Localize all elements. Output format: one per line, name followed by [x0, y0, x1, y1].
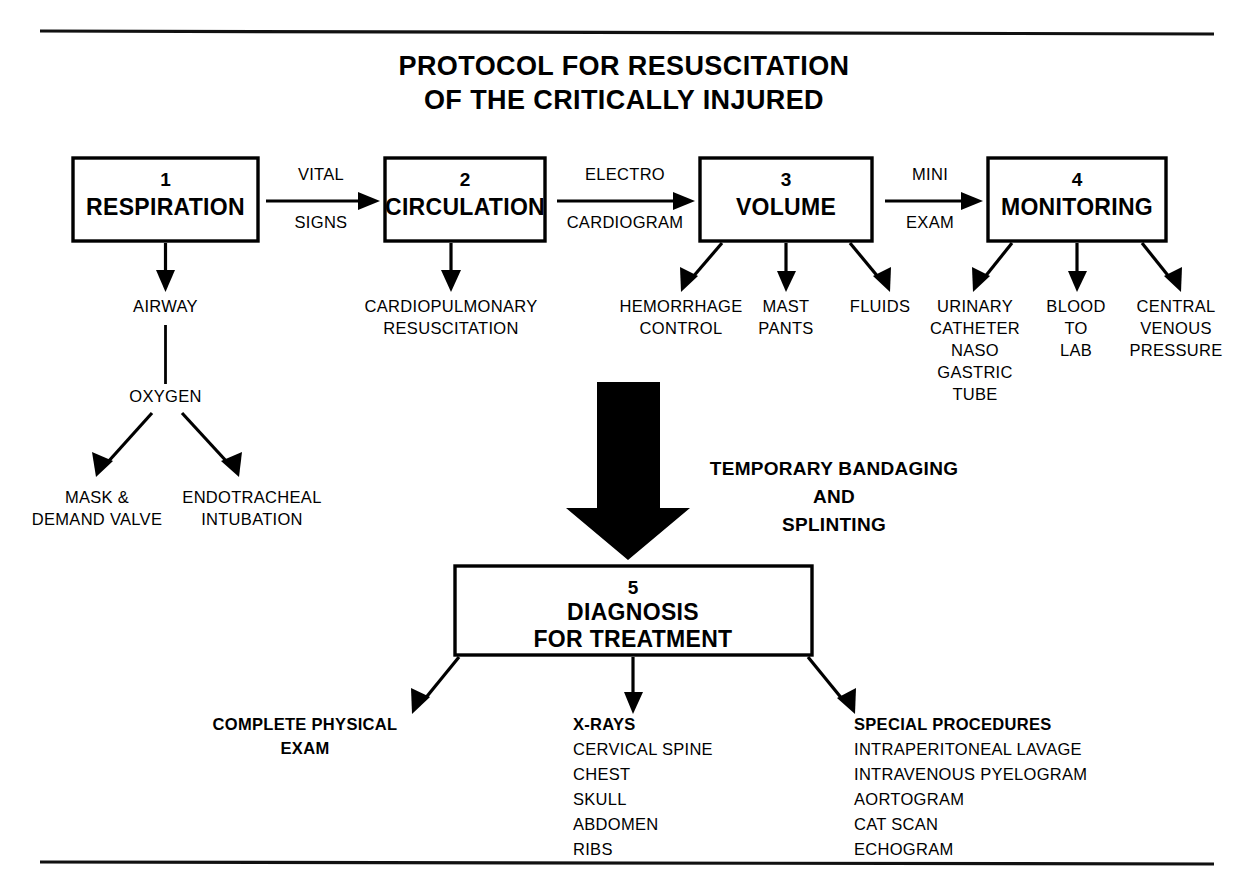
page-title-line1: PROTOCOL FOR RESUSCITATION [399, 51, 850, 81]
transition-label-exam: EXAM [906, 213, 954, 231]
flowchart-canvas: PROTOCOL FOR RESUSCITATION OF THE CRITIC… [0, 0, 1250, 887]
node-mast-pants-line2: PANTS [758, 319, 813, 337]
transition-label-signs: SIGNS [295, 213, 348, 231]
stage-box-respiration-label: RESPIRATION [86, 194, 245, 220]
interim-step-line1: TEMPORARY BANDAGING [710, 458, 959, 479]
node-hemorrhage-line2: CONTROL [640, 319, 723, 337]
node-blood-lab-line3: LAB [1060, 341, 1092, 359]
diagnosis-column-2-item-0: INTRAPERITONEAL LAVAGE [854, 740, 1082, 758]
node-urinary-catheter-line3: NASO [951, 341, 999, 359]
node-cardiopulmonary-line1: CARDIOPULMONARY [365, 297, 538, 315]
top-rule [40, 31, 1214, 34]
stage-box-diagnosis-number: 5 [628, 577, 639, 598]
bandaging-splinting-arrow-shape [566, 382, 690, 560]
branch-diagnosis [411, 657, 856, 714]
node-urinary-catheter-line4: GASTRIC [937, 363, 1012, 381]
transition-arrow-electro-cardiogram: ELECTRO CARDIOGRAM [557, 165, 695, 231]
node-endotracheal-intubation-line1: ENDOTRACHEAL [182, 488, 321, 506]
node-hemorrhage-line1: HEMORRHAGE [619, 297, 742, 315]
node-cvp-line3: PRESSURE [1129, 341, 1222, 359]
diagnosis-column-1-item-2: SKULL [573, 790, 627, 808]
stage-box-volume-number: 3 [781, 169, 792, 190]
diagnosis-column-0-heading-line1: COMPLETE PHYSICAL [213, 715, 398, 733]
diagnosis-column-2-item-1: INTRAVENOUS PYELOGRAM [854, 765, 1087, 783]
diagnosis-column-2-item-2: AORTOGRAM [854, 790, 964, 808]
transition-label-mini: MINI [912, 165, 948, 183]
node-urinary-catheter-line1: URINARY [937, 297, 1013, 315]
bottom-rule [40, 862, 1214, 864]
node-urinary-catheter-line2: CATHETER [930, 319, 1020, 337]
node-oxygen: OXYGEN [129, 387, 201, 405]
protocol-flowchart-page: PROTOCOL FOR RESUSCITATION OF THE CRITIC… [0, 0, 1250, 887]
transition-arrow-mini-exam: MINI EXAM [885, 165, 983, 231]
stage-box-circulation-label: CIRCULATION [385, 194, 545, 220]
node-mask-demand-valve-line2: DEMAND VALVE [32, 510, 162, 528]
interim-step-arrow [566, 382, 690, 560]
node-fluids: FLUIDS [850, 297, 910, 315]
stage-box-diagnosis-line2: FOR TREATMENT [534, 626, 733, 652]
node-urinary-catheter-line5: TUBE [952, 385, 997, 403]
diagnosis-column-1-item-1: CHEST [573, 765, 630, 783]
node-mast-pants-line1: MAST [762, 297, 809, 315]
diagnosis-column-0-heading-line2: EXAM [281, 739, 330, 757]
transition-label-vital: VITAL [298, 165, 344, 183]
interim-step-line3: SPLINTING [782, 514, 886, 535]
stage-box-respiration-number: 1 [160, 169, 171, 190]
node-airway: AIRWAY [133, 297, 198, 315]
transition-label-cardiogram: CARDIOGRAM [567, 213, 684, 231]
page-title-line2: OF THE CRITICALLY INJURED [424, 85, 824, 115]
diagnosis-column-1-item-0: CERVICAL SPINE [573, 740, 713, 758]
node-cvp-line1: CENTRAL [1136, 297, 1215, 315]
stage-box-diagnosis-line1: DIAGNOSIS [567, 599, 699, 625]
branch-respiration: AIRWAY OXYGEN MASK & DEMAND VALVE ENDOTR… [32, 243, 322, 528]
stage-box-monitoring-label: MONITORING [1001, 194, 1153, 220]
transition-label-electro: ELECTRO [585, 165, 665, 183]
node-cardiopulmonary-line2: RESUSCITATION [383, 319, 518, 337]
diagnosis-column-2-item-4: ECHOGRAM [854, 840, 954, 858]
node-mask-demand-valve-line1: MASK & [65, 488, 129, 506]
diagnosis-column-2-heading: SPECIAL PROCEDURES [854, 715, 1052, 733]
diagnosis-column-1-heading: X-RAYS [573, 715, 636, 733]
stage-box-circulation-number: 2 [460, 169, 471, 190]
node-blood-lab-line2: TO [1064, 319, 1087, 337]
node-blood-lab-line1: BLOOD [1046, 297, 1105, 315]
diagnosis-column-1-item-3: ABDOMEN [573, 815, 659, 833]
stage-box-monitoring-number: 4 [1072, 169, 1083, 190]
node-cvp-line2: VENOUS [1140, 319, 1211, 337]
stage-box-volume-label: VOLUME [736, 194, 836, 220]
diagnosis-column-2-item-3: CAT SCAN [854, 815, 938, 833]
branch-circulation: CARDIOPULMONARY RESUSCITATION [365, 243, 538, 337]
interim-step-line2: AND [813, 486, 855, 507]
branch-monitoring: URINARY CATHETER NASO GASTRIC TUBE BLOOD… [930, 243, 1223, 403]
branch-volume: HEMORRHAGE CONTROL MAST PANTS FLUIDS [619, 243, 910, 337]
node-endotracheal-intubation-line2: INTUBATION [201, 510, 303, 528]
diagnosis-column-1-item-4: RIBS [573, 840, 613, 858]
transition-arrow-vital-signs: VITAL SIGNS [266, 165, 380, 231]
